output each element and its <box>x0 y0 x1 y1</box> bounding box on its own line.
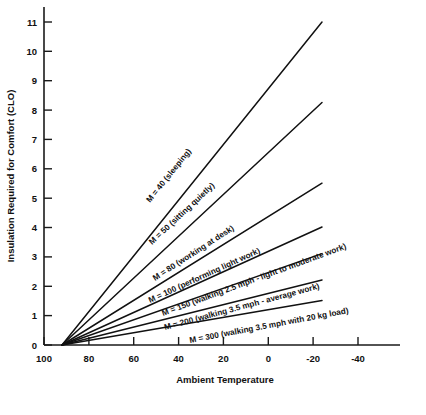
y-tick-label: 2 <box>32 281 37 292</box>
x-tick-label: 20 <box>218 353 229 364</box>
x-tick-label: 60 <box>128 353 139 364</box>
x-axis-title: Ambient Temperature <box>176 374 273 385</box>
y-axis-title: Insulation Required for Comfort (CLO) <box>5 90 16 263</box>
y-axis-ticks <box>44 22 52 345</box>
x-tick-label: 100 <box>36 353 52 364</box>
insulation-vs-temperature-chart: 0 1 2 3 4 5 6 7 8 9 10 11 100 80 60 40 2… <box>0 0 426 415</box>
y-tick-label: 0 <box>32 340 37 351</box>
x-tick-label: 80 <box>84 353 95 364</box>
x-tick-label: -20 <box>306 353 320 364</box>
line-m50 <box>62 103 322 346</box>
chart-container: 0 1 2 3 4 5 6 7 8 9 10 11 100 80 60 40 2… <box>0 0 426 415</box>
x-axis-tick-labels: 100 80 60 40 20 0 -20 -40 <box>36 353 365 364</box>
y-tick-label: 10 <box>26 46 37 57</box>
y-tick-label: 3 <box>32 251 37 262</box>
y-axis-tick-labels: 0 1 2 3 4 5 6 7 8 9 10 11 <box>26 17 37 351</box>
y-tick-label: 11 <box>27 17 38 28</box>
x-tick-label: 0 <box>266 353 271 364</box>
y-tick-label: 7 <box>32 134 37 145</box>
y-tick-label: 6 <box>32 163 37 174</box>
y-tick-label: 8 <box>32 105 37 116</box>
series-label-m40: M = 40 (sleeping) <box>145 147 194 204</box>
series-labels: M = 40 (sleeping) M = 50 (sitting quietl… <box>145 147 350 345</box>
y-tick-label: 4 <box>32 222 38 233</box>
x-tick-label: -40 <box>351 353 365 364</box>
y-tick-label: 5 <box>32 193 38 204</box>
y-tick-label: 9 <box>32 75 37 86</box>
x-tick-label: 40 <box>173 353 184 364</box>
y-tick-label: 1 <box>32 310 38 321</box>
